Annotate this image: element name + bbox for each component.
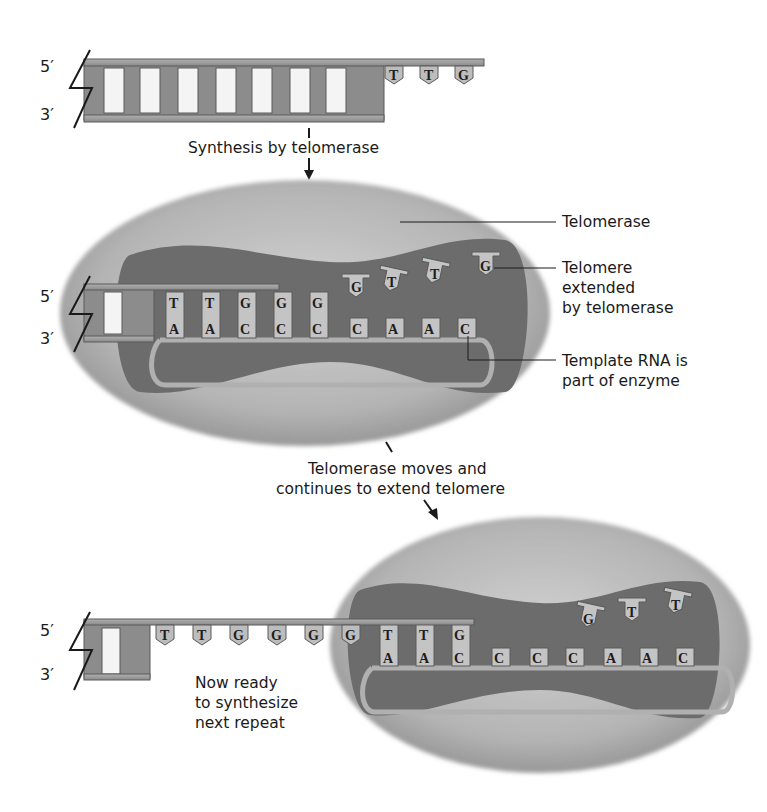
three-prime-label: 3′ <box>40 105 54 124</box>
svg-text:T: T <box>671 598 681 613</box>
svg-text:T: T <box>430 267 440 282</box>
svg-text:G: G <box>345 628 356 643</box>
svg-text:5′: 5′ <box>40 621 54 640</box>
svg-text:G: G <box>480 259 491 274</box>
svg-text:C: C <box>240 322 250 337</box>
svg-text:by telomerase: by telomerase <box>562 299 673 317</box>
svg-text:C: C <box>460 322 470 337</box>
svg-text:T: T <box>419 628 429 643</box>
svg-text:G: G <box>308 628 319 643</box>
svg-text:G: G <box>240 296 251 311</box>
svg-text:Telomerase: Telomerase <box>561 213 650 231</box>
svg-text:C: C <box>352 322 362 337</box>
template-rna-bases: A A C C C C A A C <box>169 322 470 337</box>
stage2-enzyme: 5′ 3′ T T G G G A A C C C C <box>40 180 556 446</box>
svg-text:T: T <box>169 296 179 311</box>
svg-text:C: C <box>454 651 464 666</box>
svg-text:5′: 5′ <box>40 287 54 306</box>
svg-text:G: G <box>454 628 465 643</box>
stage3-enzyme: G T T T T G A A C C C C A A C <box>330 517 750 773</box>
svg-text:A: A <box>169 322 180 337</box>
arrow-down-right-icon <box>428 508 438 520</box>
svg-text:G: G <box>233 628 244 643</box>
svg-text:G: G <box>312 296 323 311</box>
svg-text:C: C <box>276 322 286 337</box>
svg-text:A: A <box>205 322 216 337</box>
five-prime-label: 5′ <box>40 57 54 76</box>
svg-text:G: G <box>351 280 362 295</box>
svg-text:G: G <box>276 296 287 311</box>
svg-text:3′: 3′ <box>40 665 54 684</box>
svg-text:C: C <box>678 651 688 666</box>
svg-text:T: T <box>197 628 207 643</box>
svg-text:continues to extend telomere: continues to extend telomere <box>276 480 505 498</box>
svg-text:next repeat: next repeat <box>195 714 285 732</box>
svg-text:A: A <box>606 651 617 666</box>
svg-text:T: T <box>160 628 170 643</box>
stage1-dna: 5′ 3′ T T G <box>40 50 484 128</box>
svg-text:extended: extended <box>562 279 635 297</box>
svg-text:A: A <box>642 651 653 666</box>
svg-text:A: A <box>383 651 394 666</box>
svg-text:Telomere: Telomere <box>561 259 632 277</box>
top-strand <box>84 59 484 66</box>
svg-text:C: C <box>568 651 578 666</box>
svg-text:T: T <box>383 628 393 643</box>
svg-text:C: C <box>312 322 322 337</box>
svg-text:to synthesize: to synthesize <box>195 694 298 712</box>
svg-text:A: A <box>424 322 435 337</box>
stage3-note: Now ready to synthesize next repeat <box>195 674 298 732</box>
arrow-label-synthesis: Synthesis by telomerase <box>188 139 379 157</box>
svg-text:T: T <box>205 296 215 311</box>
svg-text:A: A <box>419 651 430 666</box>
svg-text:T: T <box>424 68 434 83</box>
svg-text:T: T <box>389 68 399 83</box>
svg-text:C: C <box>494 651 504 666</box>
bottom-strand <box>84 115 384 122</box>
svg-text:A: A <box>388 322 399 337</box>
svg-text:C: C <box>532 651 542 666</box>
svg-text:Telomerase moves and: Telomerase moves and <box>307 460 487 478</box>
svg-text:3′: 3′ <box>40 329 54 348</box>
svg-text:G: G <box>271 628 282 643</box>
svg-text:T: T <box>627 605 637 620</box>
svg-text:G: G <box>583 612 594 627</box>
svg-text:Now ready: Now ready <box>195 674 278 692</box>
svg-text:part of enzyme: part of enzyme <box>562 372 680 390</box>
arrow-down-icon <box>304 170 314 180</box>
svg-text:Template RNA is: Template RNA is <box>561 352 688 370</box>
stage2-callouts: Telomerase Telomere extended by telomera… <box>561 213 688 390</box>
svg-text:G: G <box>458 68 469 83</box>
overhang-bases: T T G <box>385 66 473 84</box>
svg-text:T: T <box>387 275 397 290</box>
telomerase-diagram: 5′ 3′ T T G Synthesis by telomerase <box>0 0 767 812</box>
